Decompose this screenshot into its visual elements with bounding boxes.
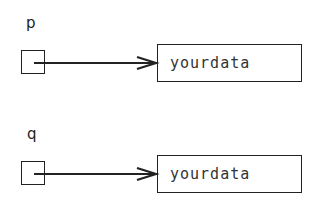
arrows	[0, 0, 320, 202]
arrow-q-icon	[34, 168, 156, 180]
arrow-p-icon	[34, 57, 156, 69]
